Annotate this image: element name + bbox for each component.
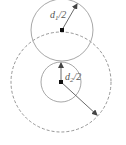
two-circles-diagram: d1/2 d2/2 — [0, 0, 126, 145]
inner-center-dot — [59, 80, 63, 84]
d2-half-label: d2/2 — [65, 71, 81, 84]
d1-half-label: d1/2 — [50, 9, 66, 22]
outer-radius-arrow — [61, 82, 97, 115]
upper-center-dot — [60, 28, 64, 32]
